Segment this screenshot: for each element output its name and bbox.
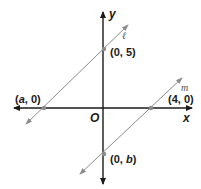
- line-m-label: m: [181, 82, 188, 93]
- point-label-0-5: (0, 5): [110, 46, 136, 58]
- point-a-0: [42, 106, 46, 110]
- point-0-5: [102, 47, 106, 51]
- line-l: [26, 25, 128, 124]
- x-axis-label: x: [182, 111, 191, 125]
- point-label-a-0: (a, 0): [15, 93, 41, 105]
- y-axis-label: y: [108, 7, 117, 21]
- point-4-0: [149, 106, 153, 110]
- point-label-0-b: (0, b): [110, 153, 137, 165]
- line-l-label: ℓ: [122, 30, 126, 41]
- coordinate-diagram: y x O ℓ m (0, 5) (a, 0) (4, 0) (0, b): [0, 0, 201, 189]
- origin-label: O: [90, 111, 100, 125]
- point-label-4-0: (4, 0): [168, 93, 194, 105]
- point-0-b: [102, 152, 106, 156]
